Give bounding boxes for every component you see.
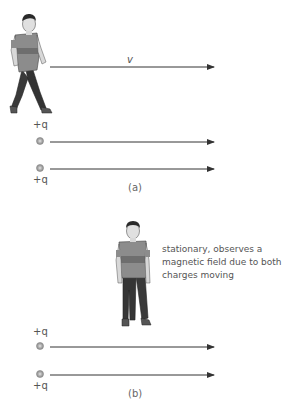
charge-bottom-b bbox=[37, 371, 44, 378]
charge-label-top-a: +q bbox=[33, 120, 48, 130]
diagram-canvas bbox=[0, 0, 287, 406]
velocity-label: v bbox=[127, 55, 133, 65]
walking-person-figure bbox=[10, 14, 52, 113]
observer-note: stationary, observes a magnetic field du… bbox=[162, 243, 287, 282]
caption-a: (a) bbox=[128, 183, 142, 193]
charge-top-a bbox=[37, 138, 44, 145]
charge-label-top-b: +q bbox=[33, 327, 48, 337]
observer-note-line-1: stationary, observes a bbox=[162, 243, 287, 256]
caption-b: (b) bbox=[128, 389, 142, 399]
charge-bottom-a bbox=[37, 165, 44, 172]
charge-label-bottom-b: +q bbox=[33, 381, 48, 391]
observer-note-line-2: magnetic field due to both bbox=[162, 256, 287, 269]
charge-label-bottom-a: +q bbox=[33, 175, 48, 185]
observer-note-line-3: charges moving bbox=[162, 269, 287, 282]
charge-top-b bbox=[37, 343, 44, 350]
standing-person-figure bbox=[116, 221, 151, 326]
